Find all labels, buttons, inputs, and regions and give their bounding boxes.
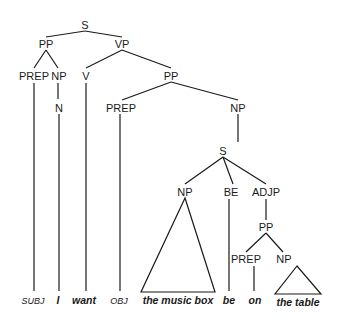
node-np: NP xyxy=(276,253,291,265)
node-pp: PP xyxy=(39,38,54,50)
leaf-want: want xyxy=(72,294,96,306)
leaf-subj: SUBJ xyxy=(21,296,45,306)
node-vp: VP xyxy=(115,38,130,50)
node-n: N xyxy=(55,102,63,114)
np-triangle-the-table xyxy=(275,266,321,294)
leaf-be: be xyxy=(223,294,235,306)
node-prep: PREP xyxy=(231,253,261,265)
node-np: NP xyxy=(230,102,245,114)
tree-nodes: S PP VP PREP NP V PP N PREP NP S NP BE A… xyxy=(19,19,292,265)
node-s-embedded: S xyxy=(219,145,226,157)
syntax-tree-diagram: S PP VP PREP NP V PP N PREP NP S NP BE A… xyxy=(0,0,342,324)
leaf-the-table: the table xyxy=(276,296,319,308)
np-triangle-music-box xyxy=(141,198,215,292)
node-be: BE xyxy=(224,186,239,198)
node-pp: PP xyxy=(259,221,274,233)
tree-leaves: SUBJ I want OBJ the music box be on the … xyxy=(21,294,319,308)
node-s-root: S xyxy=(81,19,88,31)
node-prep: PREP xyxy=(106,102,136,114)
node-np: NP xyxy=(177,186,192,198)
leaf-i: I xyxy=(57,294,61,306)
node-prep: PREP xyxy=(19,70,49,82)
leaf-obj: OBJ xyxy=(110,296,128,306)
node-pp: PP xyxy=(164,70,179,82)
leaf-the-music-box: the music box xyxy=(143,294,215,306)
node-v: V xyxy=(82,70,90,82)
leaf-on: on xyxy=(249,294,262,306)
node-adjp: ADJP xyxy=(252,186,280,198)
node-np: NP xyxy=(51,70,66,82)
